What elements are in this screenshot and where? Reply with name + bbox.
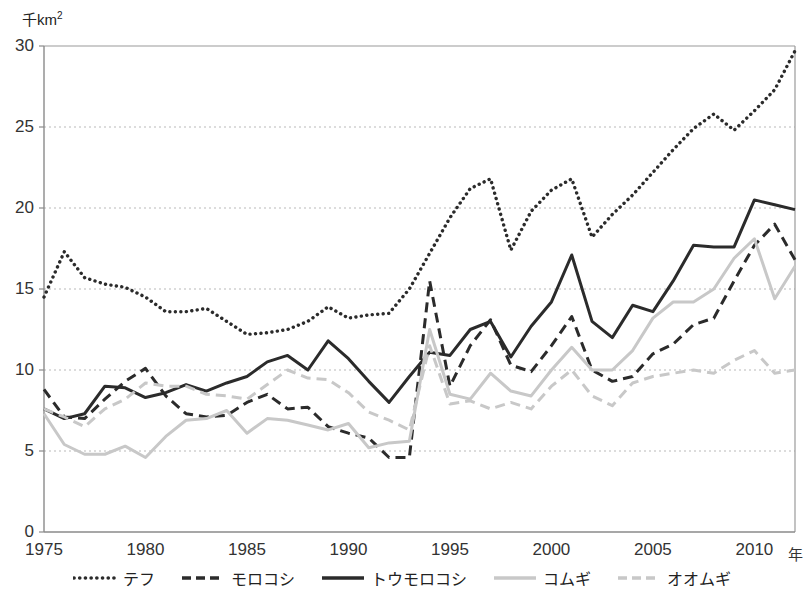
y-tick-label: 15 bbox=[2, 279, 34, 299]
y-tick-label: 30 bbox=[2, 36, 34, 56]
series-line-0 bbox=[44, 51, 795, 335]
legend-label: コムギ bbox=[543, 566, 591, 590]
x-tick-label: 1980 bbox=[115, 540, 175, 560]
legend-label: トウモロコシ bbox=[371, 566, 467, 590]
y-tick-label: 10 bbox=[2, 360, 34, 380]
series-line-3 bbox=[44, 239, 795, 458]
legend-label: モロコシ bbox=[231, 566, 295, 590]
series-line-1 bbox=[44, 224, 795, 457]
legend-swatch-dotted bbox=[73, 571, 117, 585]
legend-swatch-solid bbox=[493, 571, 537, 585]
x-tick-label: 1985 bbox=[217, 540, 277, 560]
x-tick-label: 1975 bbox=[14, 540, 74, 560]
legend-item-4[interactable]: オオムギ bbox=[617, 566, 731, 590]
y-tick-label: 0 bbox=[2, 522, 34, 542]
legend-item-0[interactable]: テフ bbox=[73, 566, 155, 590]
x-axis-unit-label: 年 bbox=[788, 543, 803, 564]
legend-label: オオムギ bbox=[667, 566, 731, 590]
x-tick-label: 1995 bbox=[420, 540, 480, 560]
x-tick-label: 2005 bbox=[623, 540, 683, 560]
legend-swatch-solid bbox=[321, 571, 365, 585]
x-tick-label: 2000 bbox=[521, 540, 581, 560]
legend-label: テフ bbox=[123, 566, 155, 590]
chart-plot-area bbox=[0, 0, 803, 607]
x-tick-label: 2010 bbox=[724, 540, 784, 560]
legend-item-3[interactable]: コムギ bbox=[493, 566, 591, 590]
y-tick-label: 25 bbox=[2, 117, 34, 137]
y-tick-label: 5 bbox=[2, 441, 34, 461]
legend-item-1[interactable]: モロコシ bbox=[181, 566, 295, 590]
x-tick-label: 1990 bbox=[318, 540, 378, 560]
chart-container: 千km2 051015202530 1975198019851990199520… bbox=[0, 0, 803, 607]
legend-item-2[interactable]: トウモロコシ bbox=[321, 566, 467, 590]
legend-swatch-dashed bbox=[181, 571, 225, 585]
chart-legend: テフモロコシトウモロコシコムギオオムギ bbox=[0, 566, 803, 590]
y-tick-label: 20 bbox=[2, 198, 34, 218]
legend-swatch-dashed bbox=[617, 571, 661, 585]
